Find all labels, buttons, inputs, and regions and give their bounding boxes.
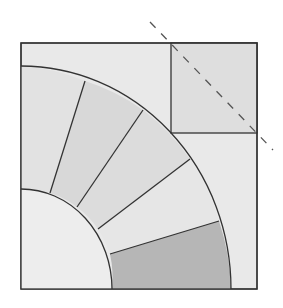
quilt-diagram-svg: [0, 0, 283, 308]
quilt-block-diagram: [0, 0, 283, 308]
